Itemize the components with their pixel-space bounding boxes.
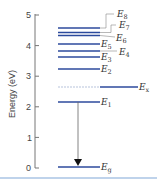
svg-text:E4: E4: [118, 47, 130, 59]
svg-text:Eg: Eg: [100, 162, 112, 174]
svg-text:E6: E6: [115, 33, 127, 45]
svg-text:E1: E1: [100, 97, 112, 109]
energy-levels: [58, 28, 138, 167]
svg-text:E5: E5: [100, 39, 112, 51]
tick-label-0: 0: [26, 163, 31, 173]
svg-text:E3: E3: [100, 52, 112, 64]
svg-text:E7: E7: [118, 20, 130, 32]
tick-label-1: 1: [27, 133, 32, 143]
y-ticks: 5 4 3 2 1 0: [26, 10, 39, 173]
tick-label-2: 2: [26, 102, 31, 112]
tick-label-4: 4: [26, 41, 31, 51]
level-labels: E8 E7 E6 E5 E4 E3 E2 Ex E1 Eg: [100, 9, 150, 174]
tick-label-5: 5: [26, 10, 31, 20]
energy-level-diagram: 5 4 3 2 1 0 Energy (eV) E8 E7 E6 E5 E4 E…: [0, 0, 157, 181]
svg-text:E2: E2: [100, 64, 112, 76]
y-axis-label: Energy (eV): [7, 70, 17, 118]
arrowhead-icon: [74, 159, 82, 166]
tick-label-3: 3: [26, 71, 31, 81]
svg-text:Ex: Ex: [138, 82, 150, 94]
